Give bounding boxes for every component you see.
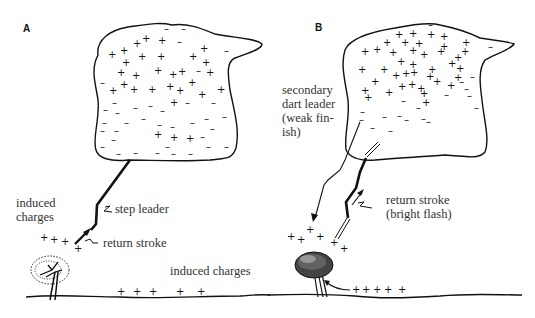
svg-text:+: + bbox=[169, 69, 177, 80]
svg-text:–: – bbox=[116, 148, 121, 159]
svg-text:–: – bbox=[165, 141, 170, 152]
panel-b-ground-line bbox=[268, 294, 522, 298]
panel-a-ground-charges: +++++ bbox=[117, 286, 205, 297]
svg-text:+: + bbox=[154, 65, 162, 76]
svg-text:+: + bbox=[287, 231, 295, 242]
panel-b-cloud-charges: ++++ +++++ +++++++ ++++ ++++++ +++++ +++… bbox=[358, 19, 493, 136]
svg-text:–: – bbox=[133, 147, 138, 158]
svg-text:+: + bbox=[176, 286, 184, 297]
svg-text:+: + bbox=[373, 284, 381, 295]
svg-text:+: + bbox=[330, 237, 338, 248]
svg-text:–: – bbox=[103, 104, 108, 115]
svg-text:–: – bbox=[404, 114, 409, 125]
panel-a-step-leader-label: step leader bbox=[115, 202, 169, 216]
svg-text:+: + bbox=[170, 132, 178, 143]
svg-text:–: – bbox=[401, 95, 406, 106]
svg-text:+: + bbox=[142, 33, 150, 44]
svg-text:+: + bbox=[188, 77, 196, 88]
diagram-drawing: +++++ ++++++ ++++++ +++++++++ + +++ ––––… bbox=[0, 0, 535, 318]
svg-text:–: – bbox=[170, 121, 175, 132]
svg-text:–: – bbox=[416, 102, 421, 113]
svg-text:+: + bbox=[120, 45, 128, 56]
svg-text:–: – bbox=[222, 111, 227, 122]
panel-b-ground-charges: +++++ bbox=[352, 284, 406, 295]
svg-text:–: – bbox=[397, 110, 402, 121]
svg-text:+: + bbox=[50, 234, 58, 245]
svg-text:+: + bbox=[398, 284, 406, 295]
svg-text:+: + bbox=[410, 67, 418, 78]
svg-text:+: + bbox=[186, 133, 194, 144]
svg-text:–: – bbox=[224, 45, 229, 56]
svg-text:+: + bbox=[316, 231, 324, 242]
svg-text:–: – bbox=[211, 97, 216, 108]
svg-text:–: – bbox=[181, 23, 186, 34]
panel-b-label: B bbox=[315, 22, 322, 33]
svg-text:–: – bbox=[426, 116, 431, 127]
svg-text:+: + bbox=[297, 234, 305, 245]
svg-text:+: + bbox=[178, 66, 186, 77]
svg-text:+: + bbox=[433, 76, 441, 87]
svg-text:+: + bbox=[74, 243, 82, 254]
svg-text:+: + bbox=[397, 56, 405, 67]
panel-b-induction-arrow bbox=[324, 280, 350, 290]
svg-text:–: – bbox=[200, 131, 205, 142]
panel-b-leader-channel bbox=[335, 142, 380, 239]
svg-text:+: + bbox=[132, 70, 140, 81]
panel-b-return-stroke-arrow bbox=[352, 189, 372, 208]
svg-text:+: + bbox=[358, 64, 366, 75]
svg-text:–: – bbox=[100, 77, 105, 88]
svg-text:+: + bbox=[206, 67, 214, 78]
svg-text:+: + bbox=[158, 35, 166, 46]
svg-text:–: – bbox=[188, 148, 193, 159]
panel-a-tree bbox=[31, 256, 69, 300]
svg-text:–: – bbox=[148, 100, 153, 111]
svg-text:+: + bbox=[392, 70, 400, 81]
svg-text:+: + bbox=[200, 43, 208, 54]
svg-text:–: – bbox=[444, 89, 449, 100]
svg-text:–: – bbox=[124, 117, 129, 128]
svg-text:+: + bbox=[138, 51, 146, 62]
svg-text:–: – bbox=[206, 141, 211, 152]
svg-text:+: + bbox=[149, 286, 157, 297]
svg-text:–: – bbox=[155, 147, 160, 158]
svg-text:+: + bbox=[154, 129, 162, 140]
panel-a-tree-charges: ++++ bbox=[40, 232, 82, 254]
svg-text:+: + bbox=[385, 87, 393, 98]
svg-text:–: – bbox=[111, 134, 116, 145]
svg-text:–: – bbox=[388, 125, 393, 136]
svg-text:+: + bbox=[198, 89, 206, 100]
svg-text:+: + bbox=[409, 45, 417, 56]
svg-text:+: + bbox=[40, 232, 48, 243]
svg-text:+: + bbox=[364, 92, 372, 103]
svg-text:–: – bbox=[164, 23, 169, 34]
svg-text:+: + bbox=[420, 49, 428, 60]
svg-text:+: + bbox=[166, 81, 174, 92]
svg-text:+: + bbox=[197, 286, 205, 297]
panel-b-secondary-dart-leader-label: secondary dart leader (weak fin- ish) bbox=[282, 83, 335, 139]
svg-text:+: + bbox=[352, 284, 360, 295]
svg-text:+: + bbox=[120, 79, 128, 90]
svg-text:–: – bbox=[370, 122, 375, 133]
svg-text:+: + bbox=[361, 46, 369, 57]
panel-a-ground-induced-charges-label: induced charges bbox=[170, 264, 251, 278]
svg-text:+: + bbox=[422, 97, 430, 108]
svg-text:–: – bbox=[100, 125, 105, 136]
lightning-diagram: +++++ ++++++ ++++++ +++++++++ + +++ ––––… bbox=[0, 0, 535, 318]
svg-text:+: + bbox=[61, 236, 69, 247]
svg-text:+: + bbox=[380, 64, 388, 75]
svg-text:+: + bbox=[189, 51, 197, 62]
panel-a-label: A bbox=[23, 23, 30, 34]
panel-b-tree-charges: ++++++ bbox=[287, 224, 348, 254]
svg-text:–: – bbox=[190, 117, 195, 128]
svg-text:–: – bbox=[115, 107, 120, 118]
svg-text:+: + bbox=[148, 84, 156, 95]
svg-text:–: – bbox=[157, 119, 162, 130]
svg-text:+: + bbox=[371, 76, 379, 87]
svg-text:+: + bbox=[398, 81, 406, 92]
svg-text:+: + bbox=[340, 243, 348, 254]
svg-text:+: + bbox=[108, 49, 116, 60]
panel-a-induced-charges-label: induced charges bbox=[16, 196, 56, 224]
panel-a-ground-line bbox=[26, 295, 270, 298]
svg-text:–: – bbox=[474, 102, 479, 113]
svg-text:–: – bbox=[171, 148, 176, 159]
